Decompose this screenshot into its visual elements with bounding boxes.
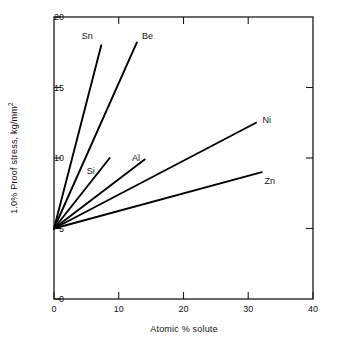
series-line-ni (54, 123, 256, 229)
ytick-label-10: 10 (48, 154, 64, 163)
y-axis-ticks-right (306, 88, 313, 229)
x-axis-title: Atomic % solute (150, 325, 218, 334)
ytick-label-20: 20 (48, 13, 64, 22)
series-label-zn: Zn (264, 177, 275, 186)
figure-container: 0 10 20 30 40 0 5 10 15 20 Atomic % solu… (0, 0, 342, 348)
series-label-al: Al (132, 154, 140, 163)
series-label-ni: Ni (262, 116, 271, 125)
series-line-zn (54, 172, 262, 228)
series-lines-group (54, 42, 262, 228)
plot-frame (54, 17, 313, 299)
xtick-label-30: 30 (243, 305, 253, 314)
y-axis-title-exponent: 2 (7, 102, 14, 106)
y-axis-title: 1.0% Proof stress, kg/mm2 (10, 102, 19, 214)
x-axis-ticks (54, 292, 313, 299)
ytick-label-15: 15 (48, 83, 64, 92)
ytick-label-0: 0 (48, 295, 64, 304)
series-label-si: Si (87, 167, 95, 176)
x-axis-ticks-top (119, 17, 249, 24)
series-label-sn: Sn (82, 32, 93, 41)
xtick-label-10: 10 (114, 305, 124, 314)
ytick-label-5: 5 (48, 224, 64, 233)
xtick-label-40: 40 (308, 305, 318, 314)
series-label-be: Be (142, 32, 153, 41)
xtick-label-0: 0 (51, 305, 56, 314)
xtick-label-20: 20 (178, 305, 188, 314)
y-axis-title-text: 1.0% Proof stress, kg/mm (9, 106, 19, 214)
